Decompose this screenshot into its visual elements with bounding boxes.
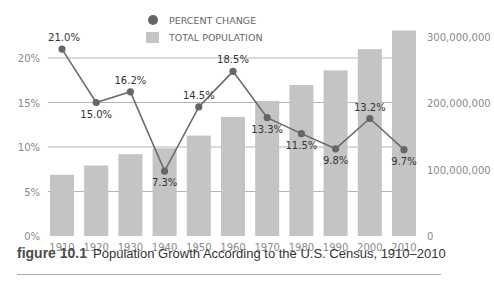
svg-text:15.0%: 15.0%: [80, 109, 112, 120]
bar-1910: [50, 175, 74, 236]
svg-text:5%: 5%: [24, 187, 40, 198]
bar-1930: [118, 154, 142, 236]
data-point-icon: [366, 115, 373, 122]
data-point-icon: [58, 46, 65, 53]
data-point-icon: [298, 130, 305, 137]
svg-text:0: 0: [427, 231, 433, 242]
data-point-icon: [400, 146, 407, 153]
svg-text:13.2%: 13.2%: [354, 102, 386, 113]
data-point-icon: [127, 88, 134, 95]
data-point-icon: [264, 114, 271, 121]
right-axis-population: 0100,000,000200,000,000300,000,000: [427, 32, 491, 243]
bar-1940: [153, 148, 177, 236]
data-point-icon: [161, 167, 168, 174]
figure-number: figure 10.1: [17, 245, 87, 261]
svg-text:18.5%: 18.5%: [217, 54, 249, 65]
svg-text:20%: 20%: [18, 53, 40, 64]
figure-title: Population Growth According to the U.S. …: [93, 246, 446, 261]
svg-text:9.8%: 9.8%: [323, 155, 348, 166]
legend-square-icon: [146, 32, 159, 43]
caption-divider: [17, 274, 441, 275]
bar-1990: [324, 70, 348, 236]
svg-text:9.7%: 9.7%: [391, 156, 416, 167]
svg-text:200,000,000: 200,000,000: [427, 98, 491, 109]
figure-caption: figure 10.1Population Growth According t…: [17, 245, 446, 261]
svg-text:13.3%: 13.3%: [251, 124, 283, 135]
svg-text:10%: 10%: [18, 142, 40, 153]
legend-dot-icon: [148, 15, 158, 25]
population-chart: 21.0%15.0%16.2%7.3%14.5%18.5%13.3%11.5%9…: [0, 0, 494, 284]
bar-1960: [221, 117, 245, 236]
data-point-icon: [229, 68, 236, 75]
left-axis-percent: 0%5%10%15%20%: [18, 53, 40, 242]
bar-2000: [358, 49, 382, 236]
bar-1950: [187, 136, 211, 236]
data-point-icon: [195, 103, 202, 110]
svg-text:21.0%: 21.0%: [48, 32, 80, 43]
bar-1980: [289, 85, 313, 236]
data-point-icon: [93, 99, 100, 106]
svg-text:300,000,000: 300,000,000: [427, 32, 491, 43]
svg-text:7.3%: 7.3%: [152, 177, 177, 188]
bar-1920: [84, 166, 108, 236]
data-point-icon: [332, 145, 339, 152]
legend-line-label: PERCENT CHANGE: [169, 15, 256, 26]
svg-text:16.2%: 16.2%: [115, 75, 147, 86]
svg-text:0%: 0%: [24, 231, 40, 242]
legend: PERCENT CHANGE TOTAL POPULATION: [146, 15, 263, 43]
svg-text:100,000,000: 100,000,000: [427, 165, 491, 176]
svg-text:15%: 15%: [18, 98, 40, 109]
svg-text:11.5%: 11.5%: [286, 140, 318, 151]
svg-text:14.5%: 14.5%: [183, 90, 215, 101]
bar-2010: [392, 31, 416, 236]
legend-bar-label: TOTAL POPULATION: [168, 32, 263, 43]
